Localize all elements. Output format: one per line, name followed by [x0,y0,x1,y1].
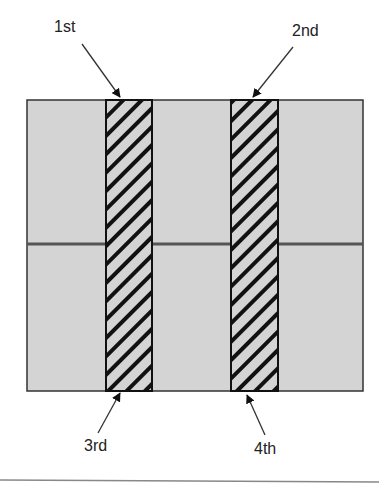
label-3rd: 3rd [84,437,107,455]
label-2nd: 2nd [292,22,319,40]
arrow-1st [82,44,120,97]
panel-grid [27,100,363,391]
bottom-rule [0,480,379,482]
arrow-2nd [253,47,293,97]
label-1st: 1st [54,18,75,36]
arrow-3rd [98,393,120,433]
hatched-column-left [106,100,152,391]
diagram-canvas [0,0,379,485]
arrow-4th [247,395,265,435]
label-4th: 4th [254,440,276,458]
hatched-column-right [231,100,278,391]
